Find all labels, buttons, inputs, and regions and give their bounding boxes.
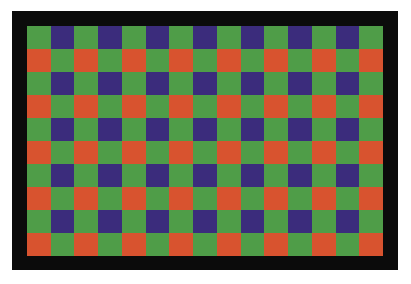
blue-filter-cell (288, 26, 312, 49)
red-filter-cell (122, 49, 146, 72)
green-filter-cell (264, 118, 288, 141)
green-filter-cell (359, 164, 383, 187)
red-filter-cell (27, 233, 51, 256)
green-filter-cell (98, 95, 122, 118)
blue-filter-cell (146, 72, 170, 95)
green-filter-cell (217, 164, 241, 187)
red-filter-cell (264, 141, 288, 164)
blue-filter-cell (241, 26, 265, 49)
blue-filter-cell (193, 164, 217, 187)
green-filter-cell (169, 118, 193, 141)
green-filter-cell (217, 210, 241, 233)
blue-filter-cell (146, 164, 170, 187)
black-border-frame (12, 11, 398, 270)
green-filter-cell (27, 26, 51, 49)
blue-filter-cell (51, 164, 75, 187)
green-filter-cell (241, 187, 265, 210)
green-filter-cell (241, 49, 265, 72)
green-filter-cell (146, 49, 170, 72)
blue-filter-cell (51, 26, 75, 49)
green-filter-cell (264, 26, 288, 49)
green-filter-cell (74, 26, 98, 49)
blue-filter-cell (241, 164, 265, 187)
green-filter-cell (98, 49, 122, 72)
green-filter-cell (169, 72, 193, 95)
green-filter-cell (122, 72, 146, 95)
red-filter-cell (27, 187, 51, 210)
green-filter-cell (146, 233, 170, 256)
blue-filter-cell (241, 118, 265, 141)
green-filter-cell (288, 233, 312, 256)
red-filter-cell (312, 141, 336, 164)
red-filter-cell (74, 141, 98, 164)
blue-filter-cell (98, 72, 122, 95)
red-filter-cell (169, 233, 193, 256)
green-filter-cell (336, 233, 360, 256)
red-filter-cell (217, 141, 241, 164)
red-filter-cell (217, 95, 241, 118)
blue-filter-cell (146, 210, 170, 233)
green-filter-cell (193, 95, 217, 118)
red-filter-cell (264, 187, 288, 210)
red-filter-cell (312, 187, 336, 210)
blue-filter-cell (193, 72, 217, 95)
red-filter-cell (312, 95, 336, 118)
green-filter-cell (217, 26, 241, 49)
green-filter-cell (146, 141, 170, 164)
green-filter-cell (288, 49, 312, 72)
blue-filter-cell (193, 118, 217, 141)
blue-filter-cell (336, 118, 360, 141)
red-filter-cell (74, 49, 98, 72)
blue-filter-cell (288, 210, 312, 233)
green-filter-cell (74, 72, 98, 95)
green-filter-cell (27, 210, 51, 233)
green-filter-cell (359, 210, 383, 233)
green-filter-cell (51, 49, 75, 72)
green-filter-cell (122, 164, 146, 187)
red-filter-cell (122, 141, 146, 164)
green-filter-cell (288, 187, 312, 210)
green-filter-cell (288, 141, 312, 164)
red-filter-cell (169, 187, 193, 210)
green-filter-cell (98, 187, 122, 210)
green-filter-cell (169, 26, 193, 49)
blue-filter-cell (336, 210, 360, 233)
blue-filter-cell (241, 72, 265, 95)
green-filter-cell (312, 118, 336, 141)
green-filter-cell (27, 118, 51, 141)
red-filter-cell (217, 187, 241, 210)
red-filter-cell (312, 49, 336, 72)
green-filter-cell (51, 141, 75, 164)
blue-filter-cell (98, 26, 122, 49)
red-filter-cell (122, 95, 146, 118)
blue-filter-cell (98, 118, 122, 141)
blue-filter-cell (193, 210, 217, 233)
red-filter-cell (264, 233, 288, 256)
green-filter-cell (264, 164, 288, 187)
bayer-filter-grid (27, 26, 383, 256)
green-filter-cell (74, 210, 98, 233)
blue-filter-cell (51, 72, 75, 95)
blue-filter-cell (98, 210, 122, 233)
red-filter-cell (74, 95, 98, 118)
red-filter-cell (169, 49, 193, 72)
green-filter-cell (146, 187, 170, 210)
blue-filter-cell (146, 118, 170, 141)
red-filter-cell (27, 95, 51, 118)
green-filter-cell (27, 164, 51, 187)
blue-filter-cell (146, 26, 170, 49)
green-filter-cell (51, 95, 75, 118)
green-filter-cell (312, 72, 336, 95)
green-filter-cell (241, 141, 265, 164)
green-filter-cell (312, 210, 336, 233)
green-filter-cell (122, 118, 146, 141)
blue-filter-cell (336, 26, 360, 49)
green-filter-cell (336, 141, 360, 164)
green-filter-cell (288, 95, 312, 118)
blue-filter-cell (98, 164, 122, 187)
blue-filter-cell (336, 72, 360, 95)
green-filter-cell (217, 72, 241, 95)
green-filter-cell (193, 141, 217, 164)
green-filter-cell (193, 49, 217, 72)
green-filter-cell (217, 118, 241, 141)
